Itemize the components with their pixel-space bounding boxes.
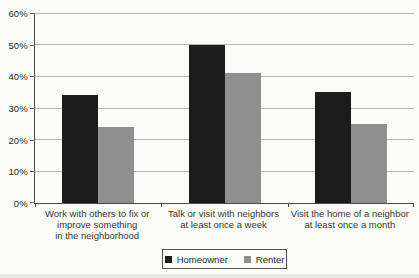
legend-label-homeowner: Homeowner: [177, 254, 228, 265]
legend: Homeowner Renter: [162, 249, 287, 269]
scan-edge-artifact: [0, 274, 419, 278]
category-label-1: Work with others to fix or improve somet…: [34, 208, 160, 241]
renter-bar-2: [225, 73, 261, 203]
plot-area: [34, 13, 414, 204]
x-axis-tick: [161, 203, 162, 207]
legend-item-renter: Renter: [244, 254, 285, 265]
x-axis-tick: [413, 203, 414, 207]
x-axis-tick: [288, 203, 289, 207]
homeowner-bar-3: [315, 92, 351, 203]
y-axis-tick: [30, 171, 35, 172]
renter-bar-3: [351, 124, 387, 203]
bar-chart: 0%10%20%30%40%50%60% Work with others to…: [0, 0, 419, 278]
gridline-60: [35, 13, 414, 14]
y-tick-label-20: 20%: [0, 134, 28, 145]
y-tick-label-60: 60%: [0, 8, 28, 19]
y-tick-label-10: 10%: [0, 166, 28, 177]
y-axis-tick: [30, 45, 35, 46]
y-axis-tick: [30, 108, 35, 109]
homeowner-bar-2: [189, 45, 225, 203]
gridline-50: [35, 44, 414, 45]
category-label-3: Visit the home of a neighbor at least on…: [287, 208, 413, 230]
y-axis-tick: [30, 140, 35, 141]
y-tick-label-0: 0%: [0, 198, 28, 209]
y-tick-label-30: 30%: [0, 103, 28, 114]
renter-swatch-icon: [244, 256, 251, 263]
y-axis-tick: [30, 76, 35, 77]
x-axis-tick: [35, 203, 36, 207]
y-axis-tick: [30, 13, 35, 14]
y-tick-label-40: 40%: [0, 71, 28, 82]
legend-label-renter: Renter: [256, 254, 285, 265]
renter-bar-1: [98, 127, 134, 203]
category-label-2: Talk or visit with neighbors at least on…: [160, 208, 286, 230]
homeowner-swatch-icon: [165, 256, 172, 263]
legend-item-homeowner: Homeowner: [165, 254, 228, 265]
y-tick-label-50: 50%: [0, 39, 28, 50]
homeowner-bar-1: [62, 95, 98, 203]
